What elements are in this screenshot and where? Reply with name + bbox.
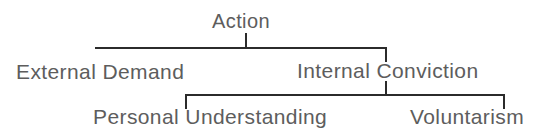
node-personal-understanding: Personal Understanding [93, 106, 327, 127]
node-external-demand: External Demand [16, 61, 184, 82]
connector-level2-rail [185, 94, 505, 96]
node-voluntarism: Voluntarism [410, 106, 524, 127]
connector-level1-rail [95, 47, 387, 49]
node-action: Action [212, 11, 270, 31]
tree-diagram: Action External Demand Internal Convicti… [0, 0, 547, 133]
node-internal-conviction: Internal Conviction [297, 60, 479, 81]
